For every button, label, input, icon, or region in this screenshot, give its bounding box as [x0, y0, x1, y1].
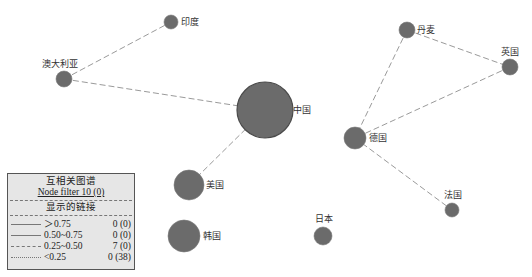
legend-subtitle: 显示的链接 — [8, 201, 134, 213]
solid-line-icon — [11, 224, 41, 225]
node-denmark[interactable]: 丹麦 — [399, 22, 435, 38]
legend-count: 0 (0) — [113, 230, 131, 241]
node-circle-icon[interactable] — [174, 170, 204, 200]
legend-range: ＞0.75 — [44, 219, 113, 230]
legend-count: 0 (38) — [108, 252, 131, 263]
edge-australia-india — [64, 22, 171, 79]
node-australia[interactable]: 澳大利亚 — [42, 58, 78, 87]
node-india[interactable]: 印度 — [164, 15, 199, 29]
node-label: 中国 — [293, 104, 311, 115]
node-label: 德国 — [369, 132, 387, 143]
node-korea[interactable]: 韩国 — [168, 220, 221, 252]
solid-line-icon — [11, 235, 41, 236]
edge-denmark-germany — [355, 30, 407, 138]
edge-denmark-uk — [407, 30, 510, 67]
legend-row: <0.25 0 (38) — [11, 252, 131, 263]
node-circle-icon[interactable] — [502, 59, 518, 75]
dotted-line-icon — [11, 257, 41, 258]
legend-title: 互相关图谱 — [8, 174, 134, 187]
node-circle-icon[interactable] — [164, 15, 178, 29]
legend-row: ＞0.75 0 (0) — [11, 219, 131, 230]
node-label: 印度 — [181, 16, 199, 27]
node-france[interactable]: 法国 — [444, 189, 462, 217]
edge-uk-germany — [355, 67, 510, 138]
legend-count: 0 (0) — [113, 219, 131, 230]
node-circle-icon[interactable] — [314, 227, 332, 245]
node-label: 韩国 — [203, 230, 221, 241]
legend-range: 0.50~0.75 — [44, 230, 113, 241]
legend-row: 0.50~0.75 0 (0) — [11, 230, 131, 241]
node-label: 法国 — [444, 189, 462, 200]
node-filter-link[interactable]: Node filter 10 (0) — [8, 187, 134, 198]
legend-row: 0.25~0.50 7 (0) — [11, 241, 131, 252]
edge-australia-china — [64, 79, 265, 110]
node-china[interactable]: 中国 — [237, 82, 311, 138]
node-circle-icon[interactable] — [399, 22, 415, 38]
edge-germany-france — [355, 138, 452, 210]
node-label: 英国 — [501, 46, 519, 57]
node-label: 丹麦 — [417, 24, 435, 35]
node-label: 日本 — [315, 213, 333, 224]
node-label: 澳大利亚 — [42, 58, 78, 69]
node-japan[interactable]: 日本 — [314, 213, 333, 245]
node-usa[interactable]: 美国 — [174, 170, 224, 200]
node-circle-icon[interactable] — [344, 127, 366, 149]
node-uk[interactable]: 英国 — [501, 46, 519, 75]
legend-count: 7 (0) — [113, 241, 131, 252]
node-circle-icon[interactable] — [168, 220, 200, 252]
node-circle-icon[interactable] — [445, 203, 459, 217]
node-label: 美国 — [206, 179, 224, 190]
node-circle-icon[interactable] — [237, 82, 293, 138]
legend-range: 0.25~0.50 — [44, 241, 113, 252]
legend-range: <0.25 — [44, 252, 108, 263]
legend-rows: ＞0.75 0 (0) 0.50~0.75 0 (0) 0.25~0.50 7 … — [8, 216, 134, 263]
dashed-line-icon — [11, 246, 41, 247]
node-circle-icon[interactable] — [56, 71, 72, 87]
legend-panel: 互相关图谱 Node filter 10 (0) 显示的链接 ＞0.75 0 (… — [7, 173, 135, 270]
